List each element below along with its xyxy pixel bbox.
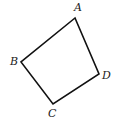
vertex-label-c: C xyxy=(48,107,57,120)
vertex-label-b: B xyxy=(9,55,18,68)
vertex-label-a: A xyxy=(73,1,82,14)
quadrilateral-abcd xyxy=(21,18,99,104)
quadrilateral-diagram: A B C D xyxy=(0,0,123,127)
vertex-label-d: D xyxy=(101,69,111,82)
